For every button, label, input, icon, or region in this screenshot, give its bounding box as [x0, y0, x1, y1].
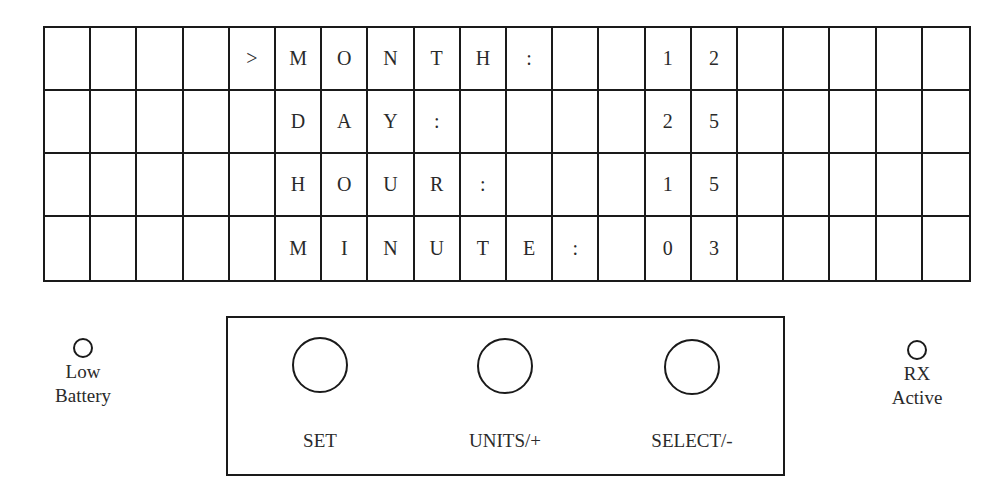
lcd-cell: [553, 154, 599, 217]
lcd-cell: [923, 217, 969, 280]
lcd-cell: [184, 154, 230, 217]
lcd-cell: [91, 91, 137, 154]
lcd-cell: [91, 217, 137, 280]
rx-active-label-line1: RX: [892, 362, 943, 386]
lcd-cell: [877, 154, 923, 217]
lcd-cell: [923, 154, 969, 217]
lcd-cell: [738, 217, 784, 280]
lcd-cell: 1: [646, 154, 692, 217]
lcd-cell: 2: [646, 91, 692, 154]
lcd-cell: O: [322, 28, 368, 91]
rx-active-label-line2: Active: [892, 386, 943, 410]
lcd-cell: [230, 217, 276, 280]
lcd-cell: [923, 91, 969, 154]
lcd-cell: T: [415, 28, 461, 91]
control-panel: SET UNITS/+ SELECT/-: [226, 316, 785, 476]
lcd-cell: [877, 91, 923, 154]
lcd-cell: R: [415, 154, 461, 217]
lcd-cell: [738, 28, 784, 91]
lcd-cell: [784, 217, 830, 280]
lcd-cell: [507, 91, 553, 154]
lcd-cell: [923, 28, 969, 91]
lcd-cell: [184, 28, 230, 91]
lcd-cell: O: [322, 154, 368, 217]
lcd-cell: 3: [692, 217, 738, 280]
lcd-cell: I: [322, 217, 368, 280]
select-minus-button-label: SELECT/-: [651, 430, 732, 452]
lcd-cell: [830, 217, 876, 280]
lcd-cell: [830, 154, 876, 217]
lcd-cell: [137, 91, 183, 154]
lcd-cell: [91, 154, 137, 217]
lcd-cell: [784, 28, 830, 91]
lcd-cell: 5: [692, 154, 738, 217]
lcd-cell: A: [322, 91, 368, 154]
lcd-cell: :: [553, 217, 599, 280]
set-button-label: SET: [303, 430, 337, 452]
lcd-cell: [738, 91, 784, 154]
lcd-cell: [599, 28, 645, 91]
lcd-cell: [184, 217, 230, 280]
lcd-cell: [45, 28, 91, 91]
lcd-cell: [599, 91, 645, 154]
select-minus-button[interactable]: [664, 339, 720, 395]
lcd-cell: U: [368, 154, 414, 217]
lcd-cell: N: [368, 217, 414, 280]
lcd-cell: [461, 91, 507, 154]
lcd-cell: 2: [692, 28, 738, 91]
low-battery-label: Low Battery: [55, 360, 111, 408]
lcd-cell: [91, 28, 137, 91]
lcd-cell: N: [368, 28, 414, 91]
low-battery-led-icon: [73, 338, 93, 358]
units-plus-button[interactable]: [477, 338, 533, 394]
lcd-cell: Y: [368, 91, 414, 154]
lcd-cell: 5: [692, 91, 738, 154]
rx-active-label: RX Active: [892, 362, 943, 410]
lcd-cell: [137, 154, 183, 217]
lcd-cell: [830, 28, 876, 91]
units-plus-button-label: UNITS/+: [469, 430, 541, 452]
lcd-cell: M: [276, 217, 322, 280]
lcd-cell: [553, 91, 599, 154]
lcd-cell: [784, 154, 830, 217]
lcd-cell: [184, 91, 230, 154]
lcd-cell: [137, 217, 183, 280]
lcd-display: >MONTH:12DAY:25HOUR:15MINUTE:03: [43, 26, 971, 282]
lcd-cell: :: [415, 91, 461, 154]
lcd-cell: [877, 217, 923, 280]
lcd-cell: [45, 217, 91, 280]
lcd-cell: [830, 91, 876, 154]
lcd-cell: [599, 154, 645, 217]
low-battery-label-line1: Low: [55, 360, 111, 384]
lcd-cell: [507, 154, 553, 217]
set-button[interactable]: [292, 337, 348, 393]
lcd-cell: [45, 154, 91, 217]
lcd-cell: H: [276, 154, 322, 217]
lcd-cell: [230, 91, 276, 154]
lcd-cell: E: [507, 217, 553, 280]
lcd-cell: >: [230, 28, 276, 91]
lcd-cell: :: [461, 154, 507, 217]
lcd-cell: D: [276, 91, 322, 154]
lcd-cell: [553, 28, 599, 91]
lcd-cell: M: [276, 28, 322, 91]
rx-active-led-icon: [907, 340, 927, 360]
lcd-cell: :: [507, 28, 553, 91]
lcd-cell: [230, 154, 276, 217]
lcd-cell: [599, 217, 645, 280]
lcd-cell: T: [461, 217, 507, 280]
lcd-cell: [784, 91, 830, 154]
lcd-cell: U: [415, 217, 461, 280]
lcd-cell: 0: [646, 217, 692, 280]
low-battery-label-line2: Battery: [55, 384, 111, 408]
lcd-cell: 1: [646, 28, 692, 91]
lcd-cell: [877, 28, 923, 91]
lcd-cell: [738, 154, 784, 217]
lcd-cell: [45, 91, 91, 154]
lcd-cell: H: [461, 28, 507, 91]
lcd-cell: [137, 28, 183, 91]
